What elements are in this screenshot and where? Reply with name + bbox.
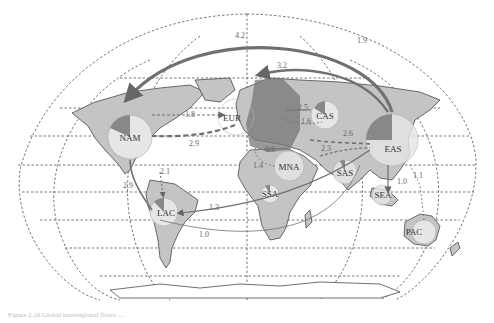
svg-text:EUR: EUR xyxy=(223,113,241,123)
svg-text:2.3: 2.3 xyxy=(321,144,331,153)
svg-text:2.9: 2.9 xyxy=(123,181,133,190)
svg-text:1.8: 1.8 xyxy=(185,110,195,119)
svg-text:LAC: LAC xyxy=(157,208,175,218)
svg-text:4.2: 4.2 xyxy=(235,31,245,40)
svg-text:2.1: 2.1 xyxy=(160,167,170,176)
region-nam: NAM xyxy=(108,115,152,159)
flow-eur-nam-2.9 xyxy=(152,125,235,136)
svg-text:2.6: 2.6 xyxy=(343,129,353,138)
svg-text:NAM: NAM xyxy=(119,133,140,143)
svg-text:1.3: 1.3 xyxy=(209,203,219,212)
svg-text:CAS: CAS xyxy=(316,111,334,121)
south-america xyxy=(146,180,198,268)
svg-text:1.6: 1.6 xyxy=(301,117,311,126)
svg-text:1.4: 1.4 xyxy=(253,161,263,170)
svg-text:1.0: 1.0 xyxy=(199,230,209,239)
svg-text:2.5: 2.5 xyxy=(298,103,308,112)
svg-text:SEA: SEA xyxy=(374,190,392,200)
region-lac: LAC xyxy=(150,198,178,226)
world-flow-map: NAM EUR CAS EAS MNA SAS SEA xyxy=(0,0,494,323)
svg-text:EAS: EAS xyxy=(384,144,401,154)
svg-text:PAC: PAC xyxy=(406,227,423,237)
region-sas: SAS xyxy=(333,160,357,184)
svg-text:3.2: 3.2 xyxy=(277,61,287,70)
svg-text:1.9: 1.9 xyxy=(357,36,367,45)
svg-text:2.9: 2.9 xyxy=(189,139,199,148)
svg-text:1.1: 1.1 xyxy=(413,171,423,180)
region-sea: SEA xyxy=(372,185,392,205)
region-cas: CAS xyxy=(311,101,339,129)
svg-text:0.9: 0.9 xyxy=(265,145,275,154)
figure-caption: Figure 2.10 Global interregional flows .… xyxy=(8,311,123,319)
greenland xyxy=(195,78,235,102)
region-eas: EAS xyxy=(366,114,418,166)
region-ssa: SSA xyxy=(261,185,279,203)
svg-text:SSA: SSA xyxy=(262,189,279,199)
antarctica xyxy=(110,282,400,298)
svg-text:1.0: 1.0 xyxy=(397,177,407,186)
svg-text:MNA: MNA xyxy=(278,162,300,172)
region-mna: MNA xyxy=(274,151,304,181)
